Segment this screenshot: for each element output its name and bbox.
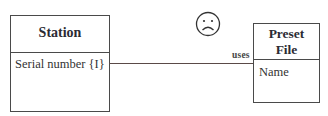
class-preset-file-title-line1: Preset bbox=[254, 26, 319, 42]
class-preset-file-divider bbox=[254, 59, 319, 60]
class-preset-file-attribute: Name bbox=[259, 65, 289, 80]
class-station: Station Serial number {I} bbox=[10, 15, 110, 112]
class-preset-file-title-line2: File bbox=[254, 42, 319, 58]
class-station-divider bbox=[11, 52, 109, 53]
class-station-title: Station bbox=[11, 25, 109, 41]
class-preset-file: Preset File Name bbox=[253, 23, 320, 103]
sad-face-icon bbox=[194, 10, 222, 38]
association-label: uses bbox=[232, 50, 250, 60]
class-station-attribute: Serial number {I} bbox=[15, 57, 105, 72]
association-line bbox=[109, 63, 254, 64]
